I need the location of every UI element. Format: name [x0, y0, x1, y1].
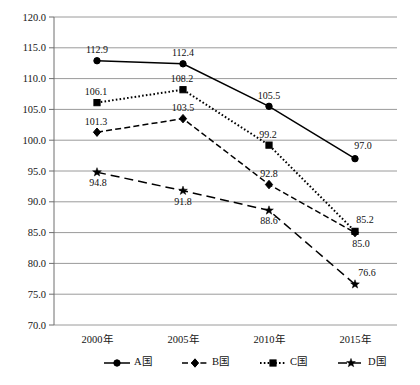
chart-canvas: 120.0115.0110.0105.0100.095.090.085.080.… [0, 0, 420, 385]
data-point-marker [347, 358, 356, 366]
legend-label: A国 [134, 356, 152, 367]
y-axis-tick-label: 95.0 [28, 166, 46, 177]
data-point-label: 105.5 [258, 90, 281, 101]
data-point-marker [114, 360, 120, 366]
data-point-marker [93, 128, 100, 136]
x-axis-tick-label: 2015年 [340, 333, 371, 345]
data-point-label: 76.6 [358, 267, 376, 278]
data-point-marker [352, 155, 358, 161]
legend-label: C国 [290, 356, 307, 367]
x-axis-tick-label: 2000年 [82, 333, 113, 345]
data-point-label: 108.2 [171, 73, 194, 84]
data-point-label: 94.8 [89, 177, 107, 188]
data-point-marker [191, 359, 198, 367]
data-point-marker [270, 360, 276, 366]
legend-item-D国[interactable]: D国 [338, 356, 386, 367]
datalabel-layer: 112.9112.4105.597.0101.3103.592.885.0106… [85, 44, 376, 278]
data-point-label: 103.5 [172, 102, 195, 113]
legend-item-C国[interactable]: C国 [260, 356, 307, 367]
data-point-label: 106.1 [85, 86, 108, 97]
data-point-marker [266, 142, 272, 148]
data-point-label: 92.8 [260, 168, 278, 179]
y-axis-tick-label: 100.0 [22, 135, 46, 146]
data-point-marker [180, 61, 186, 67]
data-point-label: 88.6 [260, 215, 278, 226]
data-point-marker [93, 168, 102, 176]
data-point-label: 97.0 [354, 140, 372, 151]
ytick-layer: 120.0115.0110.0105.0100.095.090.085.080.… [22, 12, 46, 331]
data-point-marker [265, 206, 274, 214]
data-point-label: 85.0 [352, 238, 370, 249]
legend-label: B国 [212, 356, 229, 367]
x-axis-tick-label: 2005年 [168, 333, 199, 345]
legend-label: D国 [368, 356, 386, 367]
y-axis-tick-label: 115.0 [23, 42, 46, 53]
data-point-label: 112.4 [172, 47, 194, 58]
y-axis-tick-label: 105.0 [22, 104, 46, 115]
y-axis-tick-label: 120.0 [22, 12, 46, 23]
y-axis-tick-label: 80.0 [28, 258, 46, 269]
series-line [97, 172, 355, 284]
y-axis-tick-label: 110.0 [23, 73, 46, 84]
series-line [97, 90, 355, 232]
data-point-marker [265, 180, 272, 188]
data-point-marker [179, 186, 188, 194]
xtick-layer: 2000年2005年2010年2015年 [82, 333, 371, 345]
legend-layer: A国B国C国D国 [104, 356, 386, 367]
data-point-marker [94, 100, 100, 106]
legend-item-A国[interactable]: A国 [104, 356, 152, 367]
series-layer [93, 58, 360, 289]
data-point-marker [94, 58, 100, 64]
data-point-label: 112.9 [86, 44, 108, 55]
series-B国 [93, 114, 358, 236]
data-point-marker [352, 228, 358, 234]
data-point-marker [179, 114, 186, 122]
y-axis-tick-label: 75.0 [28, 289, 46, 300]
data-point-marker [266, 103, 272, 109]
series-D国 [93, 168, 360, 288]
legend-item-B国[interactable]: B国 [182, 356, 229, 367]
y-axis-tick-label: 90.0 [28, 196, 46, 207]
data-point-label: 91.8 [174, 196, 192, 207]
y-axis-tick-label: 70.0 [28, 320, 46, 331]
data-point-label: 99.2 [259, 129, 277, 140]
x-axis-tick-label: 2010年 [254, 333, 285, 345]
line-chart: 120.0115.0110.0105.0100.095.090.085.080.… [0, 0, 420, 385]
data-point-label: 101.3 [85, 116, 108, 127]
data-point-label: 85.2 [356, 214, 374, 225]
data-point-marker [180, 87, 186, 93]
y-axis-tick-label: 85.0 [28, 227, 46, 238]
